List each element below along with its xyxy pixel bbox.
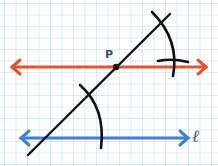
parallel-line-through-p bbox=[12, 60, 206, 74]
cross-arc-mark bbox=[158, 60, 188, 62]
construction-diagram bbox=[0, 0, 218, 166]
transversal-line bbox=[28, 14, 170, 155]
point-p bbox=[113, 64, 119, 70]
